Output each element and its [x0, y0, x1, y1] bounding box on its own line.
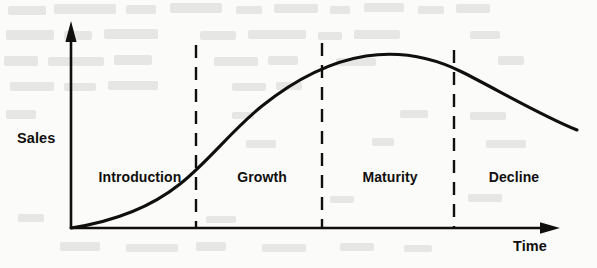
stage-label-decline: Decline [470, 169, 558, 185]
y-axis [65, 21, 76, 228]
stage-dividers [196, 43, 454, 229]
product-life-cycle-figure: Sales Time Introduction Growth Maturity … [0, 0, 597, 268]
stage-label-maturity: Maturity [341, 169, 439, 185]
stage-label-introduction: Introduction [87, 169, 193, 185]
page-bleedthrough-texture [4, 3, 526, 252]
stage-label-growth: Growth [218, 169, 306, 185]
x-axis-label: Time [513, 238, 547, 254]
y-axis-label: Sales [17, 130, 55, 146]
x-axis [71, 222, 560, 234]
plot-area [0, 0, 597, 268]
